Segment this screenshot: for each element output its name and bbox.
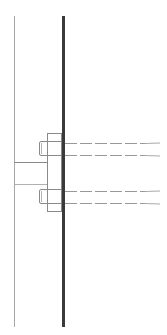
bolt-1 <box>40 142 161 157</box>
main-plate <box>62 16 65 327</box>
bolt-2 <box>40 190 161 205</box>
connection-diagram <box>0 0 167 335</box>
bolt-head-icon <box>40 142 48 156</box>
bolt-head-icon <box>40 190 48 204</box>
end-plate <box>48 134 62 212</box>
